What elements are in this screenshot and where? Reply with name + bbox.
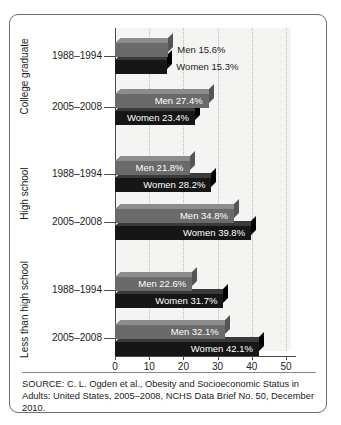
bar-face (115, 60, 167, 74)
period-label: 1988–1994 (24, 168, 102, 179)
period-label: 2005–2008 (24, 332, 102, 343)
bar-men: Men 15.6% (115, 43, 168, 57)
x-tick-mark (183, 356, 184, 360)
bar-women: Women 42.1% (115, 342, 259, 356)
bar-men: Men 21.8% (115, 161, 190, 175)
bar-value-label: Men 21.8% (135, 161, 183, 175)
period-leader-line (104, 107, 115, 108)
period-label: 2005–2008 (24, 101, 102, 112)
bar-value-label: Women 31.7% (155, 294, 217, 308)
x-tick-mark (286, 356, 287, 360)
bar-value-label: Women 28.2% (143, 178, 205, 192)
bar-value-label: Women 42.1% (191, 342, 253, 356)
bar-men: Men 34.8% (115, 209, 234, 223)
bar-men: Men 27.4% (115, 94, 209, 108)
x-tick-label: 10 (134, 361, 164, 372)
bar-women: Women 31.7% (115, 294, 223, 308)
x-tick-label: 30 (203, 361, 233, 372)
bar-men: Men 22.6% (115, 277, 192, 291)
category-label: High school (19, 133, 30, 253)
x-tick-mark (252, 356, 253, 360)
gridline (286, 28, 287, 351)
category-label: College graduate (19, 17, 30, 137)
x-tick-label: 0 (100, 361, 130, 372)
x-tick-label: 50 (271, 361, 301, 372)
bar-value-label: Men 27.4% (155, 94, 203, 108)
bar-value-label: Men 15.6% (177, 43, 225, 57)
bar-women: Women 39.8% (115, 226, 251, 240)
bar-women: Women 15.3% (115, 60, 167, 74)
period-leader-line (104, 56, 115, 57)
x-axis-line (115, 356, 296, 357)
chart-figure: 01020304050 Men 15.6%Women 15.3%Men 27.4… (9, 14, 327, 413)
x-tick-label: 40 (237, 361, 267, 372)
period-label: 1988–1994 (24, 284, 102, 295)
bar-face (115, 43, 168, 57)
gridline (252, 28, 253, 351)
x-tick-mark (149, 356, 150, 360)
source-divider (22, 372, 316, 373)
period-leader-line (104, 174, 115, 175)
bar-women: Women 28.2% (115, 178, 211, 192)
x-tick-mark (218, 356, 219, 360)
bar-value-label: Women 15.3% (176, 60, 238, 74)
period-leader-line (104, 338, 115, 339)
plot-area: 01020304050 Men 15.6%Women 15.3%Men 27.4… (10, 15, 327, 370)
x-tick-mark (115, 356, 116, 360)
bar-value-label: Women 23.4% (127, 111, 189, 125)
x-tick-label: 20 (168, 361, 198, 372)
period-leader-line (104, 222, 115, 223)
category-label: Less than high school (19, 249, 30, 369)
bar-women: Women 23.4% (115, 111, 195, 125)
period-label: 1988–1994 (24, 50, 102, 61)
bar-value-label: Women 39.8% (183, 226, 245, 240)
period-leader-line (104, 290, 115, 291)
bar-value-label: Men 32.1% (171, 325, 219, 339)
bar-value-label: Men 22.6% (138, 277, 186, 291)
bar-value-label: Men 34.8% (180, 209, 228, 223)
period-label: 2005–2008 (24, 216, 102, 227)
bar-men: Men 32.1% (115, 325, 225, 339)
source-note: SOURCE: C. L. Ogden et al., Obesity and … (22, 378, 318, 413)
